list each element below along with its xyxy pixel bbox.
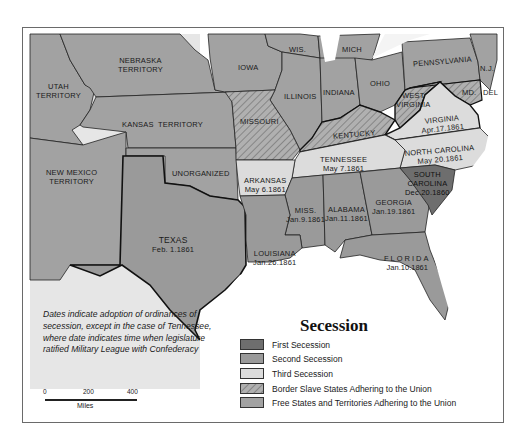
label-iowa: IOWA — [238, 63, 259, 72]
region-new-mexico — [30, 132, 126, 280]
label-west-virginia: WEST VIRGINIA — [396, 91, 431, 109]
swatch-border-slave — [240, 383, 264, 394]
legend-item-third: Third Secession — [240, 367, 333, 380]
label-del: DEL — [483, 88, 498, 97]
label-nebraska: NEBRASKA TERRITORY — [118, 56, 163, 74]
label-texas: TEXASFeb. 1.1861 — [152, 236, 194, 254]
legend-item-free: Free States and Territories Adhering to … — [240, 396, 456, 409]
legend-title: Secession — [300, 316, 368, 336]
label-alabama: ALABAMAJan.11.1861 — [325, 205, 368, 223]
label-utah: UTAH TERRITORY — [36, 82, 81, 100]
swatch-first-secession — [240, 339, 264, 350]
scale-tick-0: 0 — [43, 388, 47, 395]
scale-unit: Miles — [77, 402, 93, 409]
label-illinois: ILLINOIS — [284, 92, 316, 101]
label-ohio: OHIO — [370, 79, 390, 88]
label-nj: N.J. — [480, 64, 494, 73]
label-mississippi: MISS.Jan.9.1861 — [286, 206, 325, 224]
label-south-carolina: SOUTH CAROLINADec.20.1860 — [405, 170, 450, 197]
legend-item-second: Second Secession — [240, 352, 342, 365]
swatch-third-secession — [240, 368, 264, 379]
swatch-free-states — [240, 397, 264, 408]
label-indiana: INDIANA — [323, 88, 355, 97]
label-arkansas: ARKANSASMay 6.1861 — [244, 176, 286, 194]
label-md: MD. — [462, 88, 476, 97]
label-new-mexico: NEW MEXICO TERRITORY — [46, 168, 97, 186]
label-wis: WIS. — [289, 45, 306, 54]
legend-item-border: Border Slave States Adhering to the Unio… — [240, 382, 432, 395]
legend-item-first: First Secession — [240, 338, 330, 351]
scale-tick-200: 200 — [83, 388, 94, 395]
scale-bar: 0 200 400 Miles — [43, 388, 143, 414]
label-louisiana: LOUISIANAJan.26.1861 — [253, 249, 297, 267]
label-kansas: KANSAS TERRITORY — [122, 120, 203, 129]
label-tennessee: TENNESSEEMay 7.1861 — [320, 155, 367, 173]
label-georgia: GEORGIAJan.19.1861 — [372, 198, 416, 216]
label-unorganized: UNORGANIZED — [172, 169, 230, 178]
scale-line — [45, 399, 137, 401]
label-florida: FLORIDAJan.10.1861 — [384, 254, 431, 272]
secession-note: Dates indicate adoption of ordinances of… — [43, 309, 213, 356]
scale-tick-400: 400 — [127, 388, 138, 395]
label-mich: MICH — [342, 45, 362, 54]
swatch-second-secession — [240, 353, 264, 364]
label-missouri: MISSOURI — [240, 117, 279, 126]
